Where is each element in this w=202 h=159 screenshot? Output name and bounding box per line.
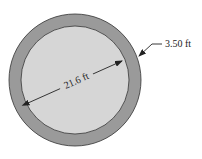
- ring-diagram: 21.6 ft 3.50 ft: [0, 0, 202, 159]
- thickness-leader-line: [139, 44, 162, 56]
- ring-thickness-label: 3.50 ft: [165, 38, 191, 49]
